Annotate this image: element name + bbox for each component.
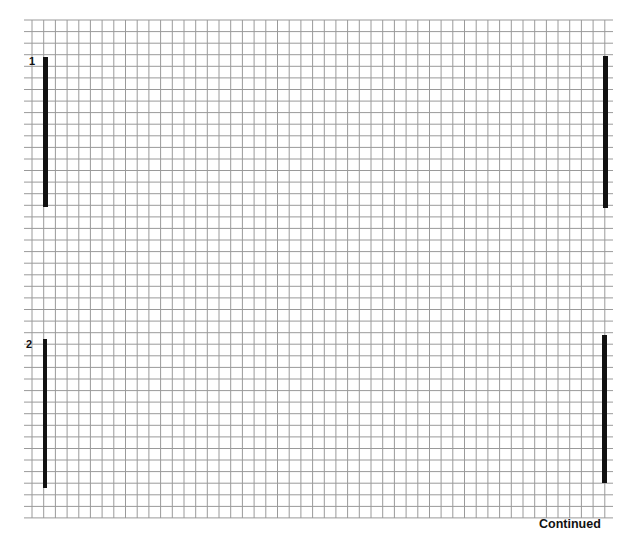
section-1-left-bracket	[43, 57, 48, 207]
continued-label: Continued	[539, 517, 601, 531]
section-2-label: 2	[26, 339, 32, 350]
section-1-label: 1	[29, 56, 35, 67]
section-1-right-bracket	[603, 56, 608, 208]
section-2-right-bracket	[602, 335, 607, 483]
section-2-left-bracket	[43, 339, 47, 488]
grid-paper	[0, 0, 632, 554]
